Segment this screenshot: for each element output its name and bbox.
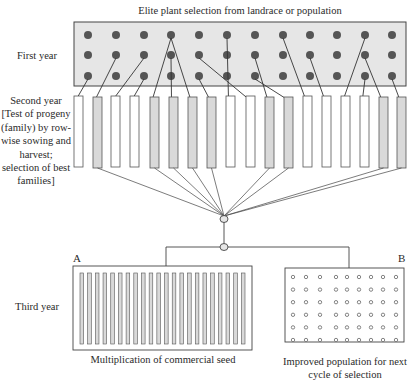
elite-plant-dot xyxy=(140,31,148,39)
population-plant xyxy=(318,288,321,291)
seed-strip xyxy=(218,273,222,344)
population-plant xyxy=(291,338,294,341)
progeny-row xyxy=(111,96,120,167)
elite-plant-dot xyxy=(279,51,287,59)
population-plant xyxy=(369,313,372,316)
population-plant xyxy=(345,338,348,341)
seed-strip xyxy=(157,273,161,344)
elite-plant-dot xyxy=(251,72,259,80)
first-year-label: First year xyxy=(4,49,70,62)
seed-strip xyxy=(165,273,169,344)
elite-plant-dot xyxy=(195,51,203,59)
seed-strip xyxy=(111,273,115,344)
population-plant xyxy=(369,288,372,291)
population-plant xyxy=(334,301,337,304)
plant-to-row-line xyxy=(171,58,172,99)
population-plant xyxy=(394,313,397,316)
seed-strip xyxy=(95,273,99,344)
seed-strip xyxy=(234,273,238,344)
selected-progeny-row xyxy=(379,97,388,168)
seed-strip xyxy=(103,273,107,344)
elite-plant-dot xyxy=(167,51,175,59)
selected-progeny-row xyxy=(188,97,197,168)
family-bulk-line xyxy=(98,168,225,216)
population-plant xyxy=(291,313,294,316)
selected-progeny-row xyxy=(93,97,102,168)
seed-strip xyxy=(149,273,153,344)
population-plant xyxy=(381,313,384,316)
selected-progeny-row xyxy=(207,97,216,168)
progeny-row xyxy=(246,96,255,167)
population-plant xyxy=(357,326,360,329)
seed-strip xyxy=(88,273,92,344)
population-plant xyxy=(304,275,307,278)
selected-progeny-row xyxy=(284,97,293,168)
seed-strip xyxy=(241,273,245,344)
elite-plant-dot xyxy=(195,31,203,39)
diagram-title: Elite plant selection from landrace or p… xyxy=(74,4,406,17)
population-plant xyxy=(381,301,384,304)
population-plant xyxy=(334,313,337,316)
seed-strip xyxy=(134,273,138,344)
seed-strip xyxy=(188,273,192,344)
population-plant xyxy=(304,313,307,316)
family-bulk-line xyxy=(224,168,289,216)
population-plant xyxy=(357,313,360,316)
progeny-row xyxy=(74,96,83,167)
population-plant xyxy=(369,275,372,278)
population-plant xyxy=(318,301,321,304)
multiplication-plot-a xyxy=(73,266,252,350)
selected-progeny-row xyxy=(265,97,274,168)
population-plant xyxy=(357,288,360,291)
population-plant xyxy=(291,275,294,278)
population-plant xyxy=(394,301,397,304)
elite-plant-dot xyxy=(388,51,396,59)
seed-strip xyxy=(126,273,130,344)
progeny-rows xyxy=(74,96,406,168)
population-plant xyxy=(381,326,384,329)
population-plant xyxy=(345,301,348,304)
progeny-row xyxy=(360,96,369,167)
population-plant xyxy=(394,275,397,278)
population-plant xyxy=(345,313,348,316)
selected-progeny-row xyxy=(169,97,178,168)
population-plant xyxy=(334,338,337,341)
elite-plant-dot xyxy=(251,51,259,59)
population-plant xyxy=(318,338,321,341)
elite-plant-dot xyxy=(140,72,148,80)
elite-plant-dot xyxy=(140,51,148,59)
family-bulk-line xyxy=(224,168,402,216)
population-plant xyxy=(345,275,348,278)
population-plant xyxy=(334,275,337,278)
improved-population-plot-b xyxy=(285,268,404,342)
seed-strip xyxy=(172,273,176,344)
elite-plant-dot xyxy=(306,31,314,39)
bulk-node xyxy=(220,216,228,223)
population-plant xyxy=(334,288,337,291)
elite-plant-dot xyxy=(84,31,92,39)
population-plant xyxy=(304,326,307,329)
elite-plant-dot xyxy=(223,31,231,39)
elite-plant-dot xyxy=(361,31,369,39)
elite-plant-dot xyxy=(279,72,287,80)
elite-plant-dot xyxy=(361,51,369,59)
outcome-b-letter: B xyxy=(398,252,405,265)
population-plant xyxy=(369,338,372,341)
seed-strip xyxy=(80,273,84,344)
seed-strip xyxy=(118,273,122,344)
seed-strip xyxy=(226,273,230,344)
split-line-to-a xyxy=(166,247,220,266)
progeny-row xyxy=(303,96,312,167)
outcome-a-letter: A xyxy=(73,252,81,265)
second-year-label: Second year [Test of progeny (family) by… xyxy=(0,94,72,188)
population-plant xyxy=(394,326,397,329)
seed-strip xyxy=(180,273,184,344)
population-plant xyxy=(291,288,294,291)
outcome-b-caption: Improved population for next cycle of se… xyxy=(280,355,410,381)
elite-plant-dot xyxy=(306,72,314,80)
elite-plant-dot xyxy=(333,72,341,80)
population-plant xyxy=(381,338,384,341)
seed-strip xyxy=(211,273,215,344)
population-plant xyxy=(334,326,337,329)
population-plant xyxy=(304,288,307,291)
